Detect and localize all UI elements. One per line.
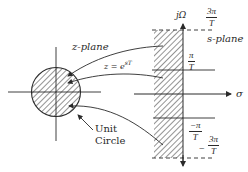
tick-label-pi-over-T: π T (188, 51, 195, 72)
tick-label-3pi-over-T: 3π T (206, 7, 217, 28)
unit-circle-pointer (78, 115, 93, 130)
mapping-equation-base: z = e (104, 62, 125, 71)
jomega-axis-label: jΩ (176, 11, 186, 20)
mapping-equation-label: z = esT (104, 60, 132, 71)
tick-label-neg-pi-over-T: −π T (189, 121, 202, 142)
unit-circle-label-line2: Circle (95, 136, 125, 146)
sigma-axis-label: σ (236, 89, 243, 99)
tick-neg-pi-numerator: −π (189, 121, 202, 132)
z-plane-label: z-plane (72, 42, 109, 52)
tick-label-neg-3pi-over-T: 3π T (208, 135, 219, 156)
tick-neg-3pi-sign: − (199, 143, 205, 154)
mapping-curve-upper-2 (68, 74, 163, 83)
z-to-s-plane-mapping-diagram: z-plane z = esT Unit Circle jΩ s-plane σ… (0, 0, 248, 172)
unit-circle-label-line1: Unit (95, 124, 117, 134)
s-plane-label: s-plane (207, 34, 243, 44)
mapping-equation-exponent: sT (125, 59, 132, 66)
